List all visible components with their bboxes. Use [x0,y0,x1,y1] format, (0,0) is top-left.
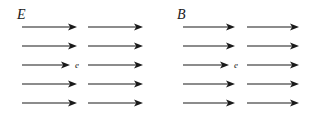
field-arrow [22,20,77,34]
field-arrow [247,77,299,91]
field-arrow [22,96,77,110]
field-arrow [247,20,299,34]
field-arrow [247,58,299,72]
electric-field-panel: E [0,0,155,119]
field-arrow [247,96,299,110]
field-arrow [183,96,235,110]
field-arrow [88,96,143,110]
electron-label: e [234,61,238,70]
arrow-row [0,20,155,34]
field-arrow [247,39,299,53]
field-arrow [183,20,235,34]
field-diagram-figure: E [0,0,309,119]
field-arrow [88,58,143,72]
arrow-row [155,20,309,34]
arrow-row: e [0,58,155,72]
magnetic-field-panel: B [155,0,309,119]
field-arrow [22,58,70,72]
field-arrow [22,77,77,91]
arrow-row [0,77,155,91]
arrow-row [155,39,309,53]
arrow-row [155,96,309,110]
electron-label: e [75,61,79,70]
field-arrow [183,58,229,72]
field-arrow [88,20,143,34]
arrow-row [0,96,155,110]
arrow-row [0,39,155,53]
field-arrow [88,39,143,53]
arrow-row: e [155,58,309,72]
field-arrow [183,77,235,91]
field-arrow [22,39,77,53]
field-arrow [183,39,235,53]
field-arrow [88,77,143,91]
arrow-row [155,77,309,91]
